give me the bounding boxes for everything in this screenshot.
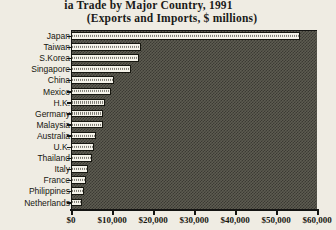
bar [71, 154, 92, 162]
bar-row: Australia [0, 132, 329, 143]
bar-category-label: Australia [4, 132, 70, 141]
bar-fill-pattern [72, 101, 104, 103]
bar-fill-pattern [72, 68, 130, 70]
bar-row: Philippines [0, 187, 329, 198]
bar [71, 54, 139, 62]
bar-category-label: H.K. [4, 99, 70, 108]
bar-fill-pattern [72, 135, 95, 137]
bar-fill-pattern [72, 57, 138, 59]
bar-fill-pattern [72, 201, 81, 203]
bar-category-label: Japan [4, 32, 70, 41]
bar [71, 143, 94, 151]
bar-row: Mexico [0, 88, 329, 99]
bar-fill-pattern [72, 90, 110, 92]
bar-category-label: Germany [4, 110, 70, 119]
x-axis-labels: $0$10,000$20,000$30,000$40,000$50,000$60… [0, 215, 329, 229]
bar [71, 76, 114, 84]
bar-category-label: S.Korea [4, 54, 70, 63]
bar [71, 88, 111, 96]
bar [71, 187, 84, 195]
bar-category-label: Thailand [4, 154, 70, 163]
bar-fill-pattern [72, 46, 140, 48]
bar-fill-pattern [72, 79, 113, 81]
bar [71, 99, 105, 107]
bar-fill-pattern [72, 146, 93, 148]
bar-category-label: Philippines [4, 187, 70, 196]
bar-fill-pattern [72, 123, 102, 125]
bar-category-label: Malaysia [4, 121, 70, 130]
bar [71, 199, 82, 207]
bar [71, 132, 96, 140]
bar-fill-pattern [72, 179, 85, 181]
bar-fill-pattern [72, 190, 83, 192]
bar [71, 110, 103, 118]
bar [71, 32, 300, 40]
bar [71, 176, 86, 184]
bar-category-label: Taiwan [4, 43, 70, 52]
bar-category-label: U.K. [4, 143, 70, 152]
bar [71, 165, 88, 173]
bar [71, 121, 103, 129]
bar [71, 43, 141, 51]
bar-fill-pattern [72, 157, 91, 159]
bar-category-label: Italy [4, 165, 70, 174]
bar-category-label: France [4, 176, 70, 185]
bar-row: China [0, 76, 329, 87]
bar-row: H.K. [0, 99, 329, 110]
bar-row: Netherlands [0, 199, 329, 210]
bar-fill-pattern [72, 112, 102, 114]
bar-fill-pattern [72, 168, 87, 170]
bar-fill-pattern [72, 35, 299, 37]
bar-category-label: Mexico [4, 88, 70, 97]
bar-category-label: Netherlands [4, 199, 70, 208]
bar-category-label: China [4, 76, 70, 85]
bar-row: Thailand [0, 154, 329, 165]
x-axis-tick-label: $60,000 [287, 215, 336, 226]
bar-category-label: Singapore [4, 65, 70, 74]
bar [71, 65, 131, 73]
